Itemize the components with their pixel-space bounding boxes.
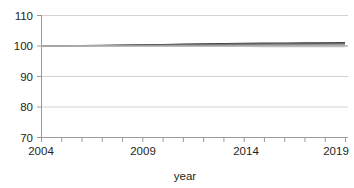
chart-background <box>0 0 354 188</box>
chart-canvas: 110 100 90 80 70 2004 2009 2014 2019 yea… <box>0 0 354 188</box>
y-tick-label-110: 110 <box>15 10 33 22</box>
x-axis-title: year <box>174 170 197 182</box>
x-tick-label-2014: 2014 <box>233 145 259 157</box>
data-line-series-6 <box>41 46 345 47</box>
line-chart: 110 100 90 80 70 2004 2009 2014 2019 yea… <box>0 0 354 188</box>
y-tick-label-100: 100 <box>14 40 33 52</box>
x-tick-label-2009: 2009 <box>130 145 156 157</box>
x-tick-label-2019: 2019 <box>323 145 349 157</box>
y-tick-label-70: 70 <box>20 132 33 144</box>
y-tick-label-90: 90 <box>20 71 33 83</box>
x-tick-label-2004: 2004 <box>28 145 54 157</box>
y-tick-label-80: 80 <box>20 101 33 113</box>
